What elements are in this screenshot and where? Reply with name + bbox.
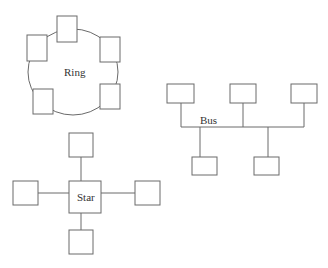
star-node bbox=[135, 181, 160, 205]
ring-topology: Ring bbox=[27, 16, 120, 115]
bus-node bbox=[230, 84, 256, 103]
bus-label: Bus bbox=[200, 114, 217, 126]
ring-node bbox=[100, 37, 120, 62]
star-node bbox=[69, 133, 93, 157]
star-node bbox=[69, 230, 93, 254]
bus-node bbox=[254, 157, 279, 175]
star-label: Star bbox=[77, 191, 95, 203]
diagram-svg: Ring Bus Star bbox=[0, 0, 328, 268]
ring-node bbox=[100, 84, 120, 109]
bus-node bbox=[167, 84, 194, 103]
ring-node bbox=[33, 89, 53, 114]
bus-node bbox=[291, 84, 317, 103]
star-topology: Star bbox=[13, 133, 160, 254]
network-topology-diagram: Ring Bus Star bbox=[0, 0, 328, 268]
ring-node bbox=[27, 35, 47, 61]
bus-topology: Bus bbox=[167, 84, 317, 175]
ring-label: Ring bbox=[64, 66, 86, 78]
bus-node bbox=[192, 157, 217, 175]
ring-node bbox=[57, 16, 77, 42]
star-node bbox=[13, 181, 38, 205]
